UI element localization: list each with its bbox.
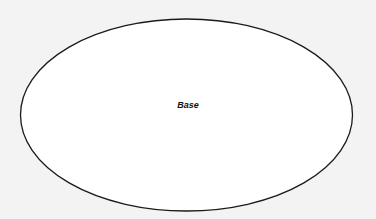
base-label: Base [0, 100, 376, 110]
base-ellipse [21, 19, 353, 211]
